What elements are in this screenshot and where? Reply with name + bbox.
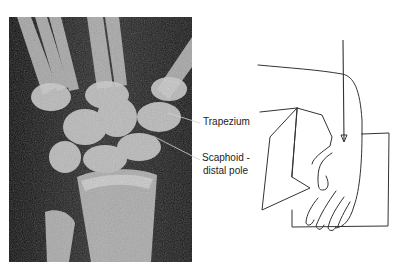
table-outline bbox=[292, 133, 389, 227]
beam-direction-arrow bbox=[343, 40, 344, 141]
hand-outline bbox=[306, 134, 362, 231]
hand-positioning-drawing bbox=[250, 40, 404, 270]
scaphoid-leader-line bbox=[153, 136, 200, 160]
trapezium-leader-line bbox=[168, 113, 200, 123]
block-outline bbox=[260, 108, 332, 210]
label-trapezium: Trapezium bbox=[203, 116, 250, 128]
label-distal-pole: distal pole bbox=[203, 165, 248, 177]
label-scaphoid: Scaphoid - bbox=[202, 152, 250, 164]
forearm-outline bbox=[258, 65, 362, 134]
